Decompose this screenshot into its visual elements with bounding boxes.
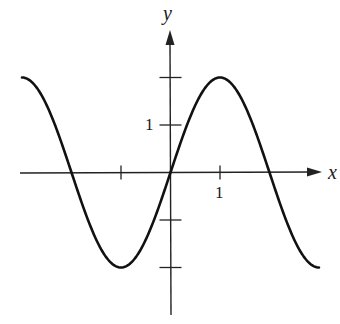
x-tick-label-1: 1 xyxy=(215,183,224,202)
y-axis xyxy=(170,42,171,315)
x-axis-label: x xyxy=(327,161,337,183)
sine-graph: x y 1 1 xyxy=(0,0,340,324)
x-axis-arrow-icon xyxy=(307,168,322,177)
y-tick-label-1: 1 xyxy=(145,115,154,134)
y-axis-label: y xyxy=(161,2,172,25)
y-axis-arrow-icon xyxy=(166,30,175,45)
